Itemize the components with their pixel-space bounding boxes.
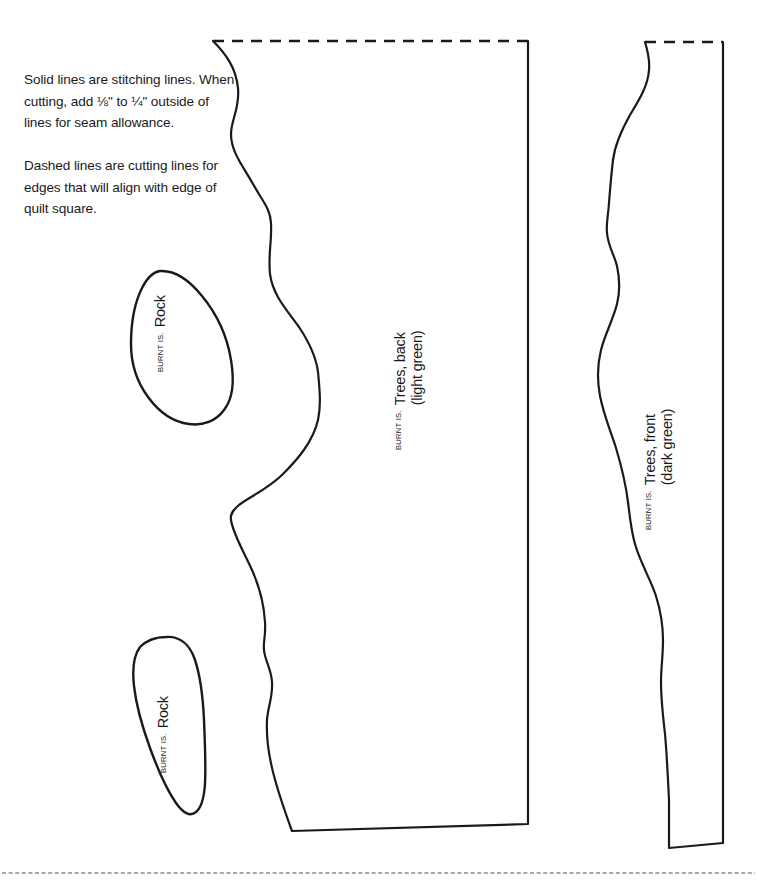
instructions-block: Solid lines are stitching lines. When cu…: [24, 69, 239, 220]
piece-collection-label: BURNT IS.: [642, 485, 656, 530]
piece-name-label: Trees, front(dark green): [642, 409, 675, 486]
piece-label-trees-back: BURNT IS. Trees, back(light green): [392, 331, 425, 450]
piece-collection-label: BURNT IS.: [157, 728, 171, 773]
piece-label-rock-bottom: BURNT IS. Rock: [155, 696, 171, 773]
piece-label-rock-top: BURNT IS. Rock: [152, 295, 168, 372]
piece-color-note: (light green): [409, 331, 425, 406]
piece-outline-trees-back: [213, 41, 528, 831]
piece-name-label: Rock: [152, 295, 168, 327]
piece-label-trees-front: BURNT IS. Trees, front(dark green): [642, 409, 675, 530]
piece-name-label: Rock: [155, 696, 171, 728]
piece-name-label: Trees, back(light green): [392, 331, 425, 406]
piece-color-note: (dark green): [659, 409, 675, 486]
stitching-line-trees-back: [213, 41, 528, 831]
stitching-line-rock-top: [131, 271, 233, 424]
instruction-paragraph-1: Solid lines are stitching lines. When cu…: [24, 69, 239, 134]
instruction-paragraph-2: Dashed lines are cutting lines for edges…: [24, 155, 239, 220]
piece-collection-label: BURNT IS.: [392, 405, 406, 450]
piece-collection-label: BURNT IS.: [154, 327, 168, 372]
pattern-page: Solid lines are stitching lines. When cu…: [0, 0, 757, 892]
